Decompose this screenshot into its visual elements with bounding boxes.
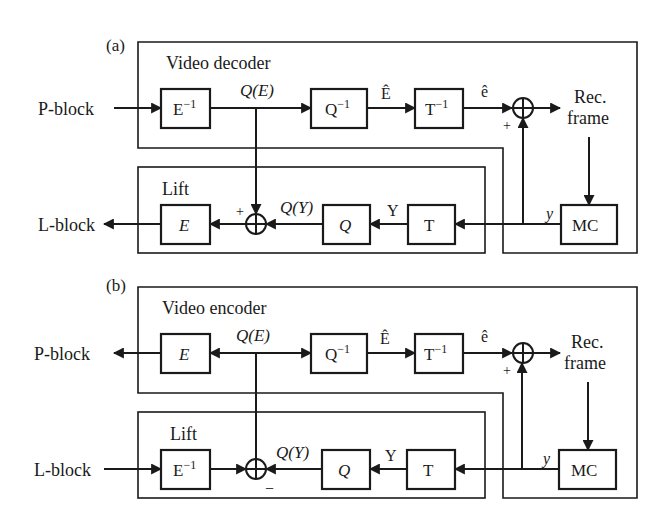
svg-text:Q: Q [339,216,351,235]
sum-top-plus-sign: + [503,118,511,133]
lift-entropy-block: E [161,205,210,244]
prediction-label: y [544,205,554,223]
motion-comp-block-b: MC [559,450,616,489]
sum-lift-plus-sign: + [236,204,244,219]
panel-a-label: (a) [106,36,125,55]
inverse-quant-block: Q−1 [311,89,367,128]
transformed-pred-label: Y [387,202,399,219]
lift-title-a: Lift [162,179,189,199]
svg-text:Q: Q [338,461,350,480]
panel-b-label: (b) [106,276,126,295]
sum-node-lift-a [246,214,266,234]
qy-label: Q(Y) [280,198,313,217]
lift-inverse-entropy-block: E−1 [161,450,210,489]
transformed-pred-label-b: Y [385,447,397,464]
rec-frame-label-line2-b: frame [564,353,606,373]
p-block-output-label: P-block [34,344,90,364]
panel-a: (a) Video decoder Lift P-block E−1 Q(E) … [38,36,637,253]
svg-text:E: E [178,216,190,235]
sum-node-top-b [513,343,533,363]
quant-block: Q [323,205,370,244]
e-hat-lower-label-b: ê [481,328,488,345]
svg-text:MC: MC [571,461,597,480]
inverse-transform-block: T−1 [415,89,463,128]
qy-label-b: Q(Y) [276,443,309,462]
rec-frame-label-line1-b: Rec. [571,332,603,352]
sum-node-lift-b [246,459,266,479]
transform-block: T [408,205,455,244]
l-block-output-label: L-block [38,215,95,235]
inverse-transform-block-b: T−1 [415,334,463,373]
sum-node-top-a [513,98,533,118]
lifting-diagram: (a) Video decoder Lift P-block E−1 Q(E) … [0,0,670,526]
video-encoder-title: Video encoder [162,298,266,318]
entropy-block: E [161,334,210,373]
l-block-input-label: L-block [34,460,91,480]
sum-lift-minus-sign: − [265,480,274,497]
sum-top-plus-sign-b: + [503,363,511,378]
e-hat-upper-label: Ê [381,84,391,102]
panel-b: (b) Video encoder Lift P-block E Q(E) Q−… [34,276,637,498]
transform-block-b: T [407,450,455,489]
qe-label-b: Q(E) [236,326,270,345]
inverse-entropy-block: E−1 [161,89,210,128]
qe-label: Q(E) [240,81,274,100]
svg-text:MC: MC [572,216,598,235]
quant-block-b: Q [322,450,370,489]
rec-frame-label-line2: frame [567,108,609,128]
svg-text:T: T [423,461,434,480]
svg-text:T: T [424,216,435,235]
rec-frame-label-line1: Rec. [574,87,606,107]
prediction-label-b: y [541,450,551,468]
p-block-input-label: P-block [38,99,94,119]
svg-text:E: E [178,345,190,364]
e-hat-upper-label-b: Ê [380,329,390,347]
e-hat-lower-label: ê [481,83,488,100]
inverse-quant-block-b: Q−1 [311,334,367,373]
motion-comp-block: MC [561,205,617,244]
lift-title-b: Lift [170,424,197,444]
video-decoder-title: Video decoder [166,53,270,73]
